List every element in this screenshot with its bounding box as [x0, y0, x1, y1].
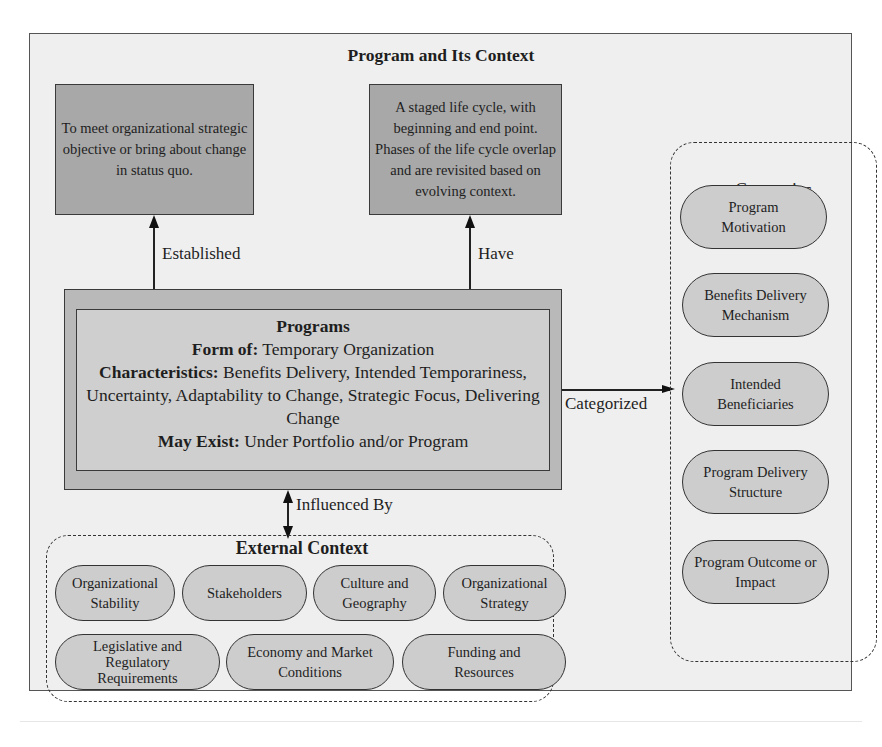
- context-legislative-regulatory: Legislative and Regulatory Requirements: [55, 634, 220, 690]
- programs-box: Programs Form of: Temporary Organization…: [76, 309, 550, 471]
- category-program-motivation: Program Motivation: [680, 185, 827, 249]
- may-exist-value: Under Portfolio and/or Program: [244, 431, 468, 451]
- context-stakeholders: Stakeholders: [182, 565, 307, 621]
- arrow-up-icon: [149, 215, 159, 228]
- arrow-up-icon: [465, 215, 475, 228]
- category-program-outcome-or-impact: Program Outcome or Impact: [682, 540, 829, 604]
- arrow-up-icon: [283, 490, 293, 503]
- diagram-title: Program and Its Context: [0, 45, 882, 66]
- have-label: Have: [478, 244, 514, 264]
- category-intended-beneficiaries: Intended Beneficiaries: [682, 362, 829, 426]
- characteristics-label: Characteristics: [99, 362, 213, 382]
- context-funding-resources: Funding and Resources: [402, 634, 566, 690]
- purpose-box: To meet organizational strategic objecti…: [55, 84, 254, 215]
- purpose-text: To meet organizational strategic objecti…: [60, 118, 249, 181]
- category-benefits-delivery-mechanism: Benefits Delivery Mechanism: [682, 273, 829, 337]
- page-rule: [20, 721, 862, 722]
- lifecycle-text: A staged life cycle, with beginning and …: [374, 97, 557, 202]
- established-label: Established: [162, 244, 240, 264]
- external-context-title: External Context: [52, 538, 552, 559]
- context-culture-and-geography: Culture and Geography: [313, 565, 436, 621]
- categorized-label: Categorized: [565, 394, 647, 414]
- programs-title: Programs: [276, 316, 350, 336]
- category-program-delivery-structure: Program Delivery Structure: [682, 450, 829, 514]
- context-economy-market: Economy and Market Conditions: [226, 634, 394, 690]
- categorized-connector: [562, 389, 670, 391]
- context-organizational-strategy: Organizational Strategy: [443, 565, 566, 621]
- form-of-value: Temporary Organization: [262, 339, 434, 359]
- may-exist-label: May Exist: [158, 431, 234, 451]
- context-organizational-stability: Organizational Stability: [55, 565, 175, 621]
- influenced-by-label: Influenced By: [296, 495, 393, 515]
- form-of-label: Form of: [192, 339, 253, 359]
- lifecycle-box: A staged life cycle, with beginning and …: [369, 84, 562, 215]
